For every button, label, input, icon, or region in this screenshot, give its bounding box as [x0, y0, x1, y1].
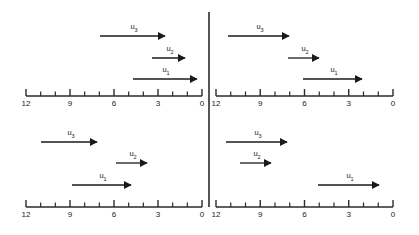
bottom-right-panel-axis-label-12: 12 [212, 211, 221, 219]
bottom-right-panel-axis-label-0: 0 [391, 211, 395, 219]
bottom-right-panel-vector-u1-label: u1 [346, 172, 353, 182]
vector-subscript: 3 [135, 27, 138, 33]
top-right-panel-axis-label-3: 3 [347, 100, 351, 108]
top-right-panel-vector-u2-label: u2 [301, 45, 308, 55]
top-right-panel-vector-u3-label: u3 [256, 23, 263, 33]
bottom-right-panel-axis-label-6: 6 [302, 211, 306, 219]
top-right-panel-axis-label-0: 0 [391, 100, 395, 108]
vectors-group [41, 36, 379, 185]
bottom-right-panel-axis-label-3: 3 [347, 211, 351, 219]
top-left-panel-axis-label-0: 0 [200, 100, 204, 108]
top-left-panel-axis-label-3: 3 [156, 100, 160, 108]
bottom-left-panel-axis-label-9: 9 [68, 211, 72, 219]
figure-canvas: 129630u3u2u1129630u3u2u1129630u3u2u11296… [0, 0, 419, 235]
top-left-panel-axis-label-9: 9 [68, 100, 72, 108]
top-left-panel-axis-label-12: 12 [22, 100, 31, 108]
vector-subscript: 1 [167, 70, 170, 76]
vector-subscript: 2 [258, 154, 261, 160]
bottom-left-panel-vector-u2-label: u2 [129, 150, 136, 160]
bottom-left-panel-axis-label-3: 3 [156, 211, 160, 219]
vector-subscript: 2 [171, 49, 174, 55]
top-right-panel-axis-label-6: 6 [302, 100, 306, 108]
bottom-left-panel-axis-label-12: 12 [22, 211, 31, 219]
vector-subscript: 1 [104, 176, 107, 182]
bottom-right-panel-axis-label-9: 9 [258, 211, 262, 219]
vector-subscript: 3 [261, 27, 264, 33]
top-left-panel-vector-u3-label: u3 [130, 23, 137, 33]
bottom-left-panel-vector-u3-label: u3 [67, 129, 74, 139]
top-left-panel-axis-label-6: 6 [112, 100, 116, 108]
top-left-panel-vector-u1-label: u1 [162, 66, 169, 76]
bottom-left-panel-vector-u1-label: u1 [99, 172, 106, 182]
top-right-panel-axis-label-9: 9 [258, 100, 262, 108]
diagram-svg [0, 0, 419, 235]
vector-subscript: 3 [259, 133, 262, 139]
bottom-left-panel-axis-label-0: 0 [200, 211, 204, 219]
vector-subscript: 1 [351, 176, 354, 182]
top-right-panel-vector-u1-label: u1 [330, 66, 337, 76]
vector-subscript: 2 [306, 49, 309, 55]
bottom-left-panel-axis-label-6: 6 [112, 211, 116, 219]
bottom-right-panel-vector-u2-label: u2 [253, 150, 260, 160]
top-left-panel-vector-u2-label: u2 [166, 45, 173, 55]
bottom-right-panel-vector-u3-label: u3 [254, 129, 261, 139]
top-right-panel-axis-label-12: 12 [212, 100, 221, 108]
vector-subscript: 3 [72, 133, 75, 139]
vector-subscript: 2 [134, 154, 137, 160]
vector-subscript: 1 [335, 70, 338, 76]
